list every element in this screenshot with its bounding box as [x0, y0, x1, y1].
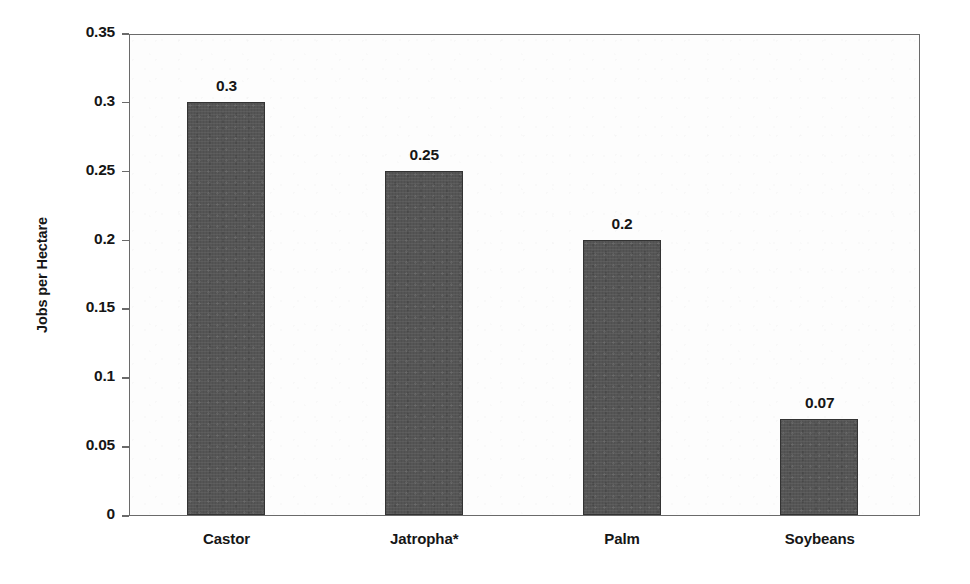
bar-chart: Jobs per Hectare 00.050.10.150.20.250.30…: [0, 0, 970, 584]
x-axis-category-label: Jatropha*: [390, 530, 458, 547]
y-axis-tick-label: 0: [107, 505, 115, 523]
y-axis-tick-label: 0.15: [86, 298, 115, 316]
y-axis-tick-mark: [122, 240, 129, 242]
plot-area: [129, 34, 920, 516]
y-axis-tick-label: 0.2: [94, 230, 115, 248]
bar: [780, 419, 858, 515]
bar-value-label: 0.07: [805, 394, 834, 412]
x-axis-category-label: Soybeans: [785, 530, 855, 547]
y-axis-tick-mark: [122, 446, 129, 448]
y-axis-tick-label: 0.35: [86, 23, 115, 41]
y-axis-tick-mark: [122, 377, 129, 379]
bar: [385, 171, 463, 515]
bar-value-label: 0.2: [612, 215, 633, 233]
y-axis-title: Jobs per Hectare: [34, 180, 50, 370]
bar: [187, 102, 265, 515]
bar-value-label: 0.25: [410, 146, 439, 164]
y-axis-tick-label: 0.05: [86, 436, 115, 454]
x-axis-category-label: Castor: [203, 530, 250, 547]
x-axis-category-label: Palm: [604, 530, 639, 547]
y-axis-tick-mark: [122, 515, 129, 517]
y-axis-tick-mark: [122, 33, 129, 35]
y-axis-tick-label: 0.1: [94, 367, 115, 385]
y-axis-tick-label: 0.3: [94, 92, 115, 110]
bar: [583, 240, 661, 515]
y-axis-tick-mark: [122, 171, 129, 173]
y-axis-tick-label: 0.25: [86, 161, 115, 179]
bar-value-label: 0.3: [216, 77, 237, 95]
y-axis-tick-mark: [122, 102, 129, 104]
y-axis-tick-mark: [122, 308, 129, 310]
